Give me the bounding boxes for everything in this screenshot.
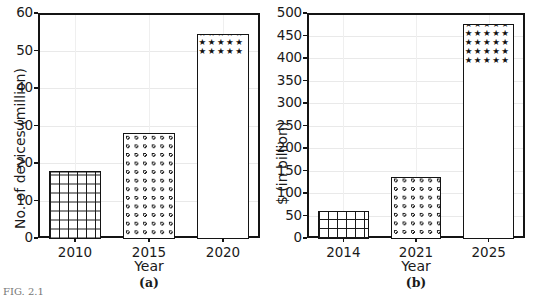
y-tick-mark bbox=[303, 237, 307, 239]
y-tick-mark bbox=[34, 162, 38, 164]
chart-panel-a: ★★★★★ ★★★★★ ★★★★★ ★★★★★ ★★★★★ ★★★★★ ★★★★… bbox=[0, 0, 268, 294]
x-tick-label: 2021 bbox=[399, 245, 433, 259]
star-hatch-fill: ★★★★★ ★★★★★ ★★★★★ ★★★★★ ★★★★★ ★★★★★ ★★★★… bbox=[464, 24, 513, 238]
bar-2015 bbox=[123, 133, 175, 239]
y-tick-label: 350 bbox=[277, 74, 302, 88]
bottom-caption-fragment: FIG. 2.1 bbox=[3, 286, 44, 295]
y-tick-mark bbox=[303, 57, 307, 59]
y-tick-mark bbox=[34, 12, 38, 14]
y-tick-mark bbox=[303, 80, 307, 82]
y-tick-label: 0 bbox=[294, 231, 302, 245]
y-axis-label-a: No. of devices (million) bbox=[12, 68, 28, 229]
bar-2025: ★★★★★ ★★★★★ ★★★★★ ★★★★★ ★★★★★ ★★★★★ ★★★★… bbox=[463, 24, 514, 239]
x-tick-mark bbox=[488, 238, 490, 242]
y-tick-mark bbox=[303, 170, 307, 172]
x-tick-mark bbox=[148, 238, 150, 242]
y-tick-mark bbox=[34, 50, 38, 52]
x-axis-label-b: Year bbox=[401, 258, 431, 274]
y-tick-mark bbox=[303, 192, 307, 194]
y-tick-mark bbox=[34, 87, 38, 89]
y-tick-label: 0 bbox=[25, 231, 33, 245]
y-tick-label: 60 bbox=[16, 6, 33, 20]
bar-2021 bbox=[391, 177, 442, 239]
y-tick-mark bbox=[303, 35, 307, 37]
y-tick-mark bbox=[34, 237, 38, 239]
x-tick-mark bbox=[415, 238, 417, 242]
x-tick-label: 2025 bbox=[471, 245, 505, 259]
x-tick-label: 2014 bbox=[326, 245, 360, 259]
x-tick-label: 2020 bbox=[206, 245, 240, 259]
y-tick-mark bbox=[303, 125, 307, 127]
x-tick-mark bbox=[343, 238, 345, 242]
y-tick-mark bbox=[303, 12, 307, 14]
bar-2010 bbox=[49, 171, 101, 240]
y-tick-label: 400 bbox=[277, 51, 302, 65]
y-tick-label: 50 bbox=[16, 44, 33, 58]
x-tick-mark bbox=[222, 238, 224, 242]
y-tick-label: 450 bbox=[277, 29, 302, 43]
x-tick-label: 2010 bbox=[58, 245, 92, 259]
x-axis-label-a: Year bbox=[134, 258, 164, 274]
x-tick-mark bbox=[74, 238, 76, 242]
y-tick-label: 300 bbox=[277, 96, 302, 110]
y-tick-mark bbox=[303, 147, 307, 149]
panel-caption-a: (a) bbox=[139, 275, 159, 290]
bar-2014 bbox=[318, 211, 369, 239]
panel-caption-b: (b) bbox=[406, 275, 427, 290]
y-tick-mark bbox=[303, 215, 307, 217]
vertical-gridline bbox=[343, 15, 344, 236]
y-tick-mark bbox=[34, 200, 38, 202]
y-tick-mark bbox=[303, 102, 307, 104]
y-tick-label: 50 bbox=[285, 209, 302, 223]
bar-2020: ★★★★★ ★★★★★ ★★★★★ ★★★★★ ★★★★★ ★★★★★ ★★★★… bbox=[197, 34, 249, 239]
y-tick-label: 500 bbox=[277, 6, 302, 20]
y-axis-label-b: $ (in billion) bbox=[274, 122, 290, 205]
y-tick-mark bbox=[34, 125, 38, 127]
chart-panel-b: ★★★★★ ★★★★★ ★★★★★ ★★★★★ ★★★★★ ★★★★★ ★★★★… bbox=[265, 0, 533, 294]
x-tick-label: 2015 bbox=[132, 245, 166, 259]
star-hatch-fill: ★★★★★ ★★★★★ ★★★★★ ★★★★★ ★★★★★ ★★★★★ ★★★★… bbox=[198, 34, 248, 238]
